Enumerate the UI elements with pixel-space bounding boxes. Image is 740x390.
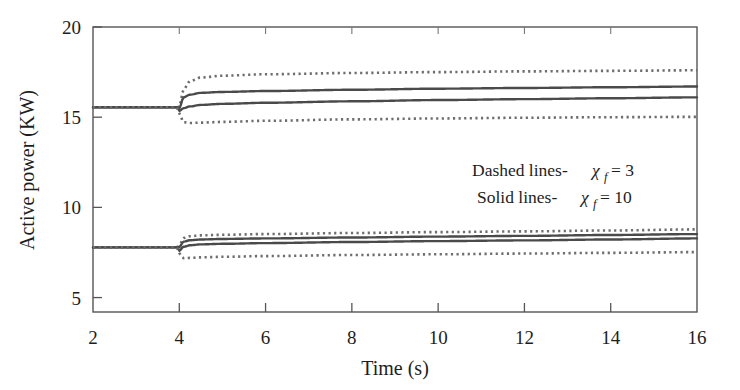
legend-dashed-subscript: f <box>604 170 609 184</box>
x-tick-label: 2 <box>88 327 98 348</box>
y-tick-label: 5 <box>72 288 82 309</box>
legend-annotation-solid: Solid lines- χ f = 10 <box>477 187 632 211</box>
data-curves <box>93 70 697 258</box>
y-tick-label: 15 <box>62 107 81 128</box>
plot-canvas: 5101520 246810121416 Time (s) Active pow… <box>0 0 740 390</box>
data-series-dotted <box>93 107 697 123</box>
legend-dashed-symbol: χ <box>590 160 601 180</box>
y-tick-label: 20 <box>62 17 81 38</box>
x-axis-tick-labels: 246810121416 <box>88 327 706 348</box>
legend-solid-symbol: χ <box>579 187 590 207</box>
x-axis-title: Time (s) <box>361 357 429 380</box>
legend-solid-value: = 10 <box>600 187 632 207</box>
data-series-solid <box>93 238 697 250</box>
legend-annotation-dashed: Dashed lines- χ f = 3 <box>472 160 634 184</box>
x-tick-label: 12 <box>515 327 534 348</box>
x-tick-label: 8 <box>347 327 357 348</box>
x-tick-label: 6 <box>261 327 271 348</box>
legend-solid-subscript: f <box>593 197 598 211</box>
x-tick-label: 16 <box>688 327 707 348</box>
data-series-dotted <box>93 247 697 258</box>
y-axis-tick-labels: 5101520 <box>62 17 81 309</box>
legend-solid-prefix: Solid lines- <box>477 187 557 207</box>
x-tick-label: 4 <box>175 327 185 348</box>
chart-figure: 5101520 246810121416 Time (s) Active pow… <box>0 0 740 390</box>
legend-dashed-value: = 3 <box>611 160 634 180</box>
y-tick-label: 10 <box>62 197 81 218</box>
y-axis-title: Active power (KW) <box>16 90 39 250</box>
x-tick-label: 14 <box>601 327 621 348</box>
x-tick-label: 10 <box>429 327 448 348</box>
legend-dashed-prefix: Dashed lines- <box>472 160 568 180</box>
